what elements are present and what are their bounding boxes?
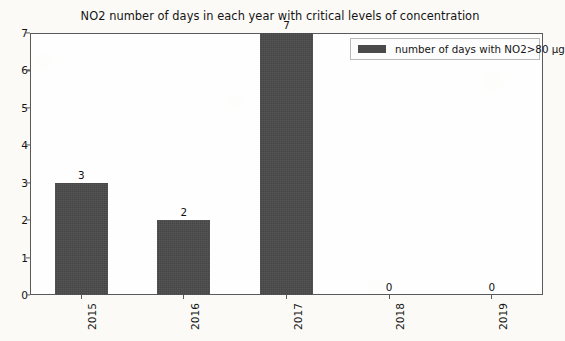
y-axis-tick-label: 6 [0, 64, 28, 76]
bar [157, 220, 210, 295]
bar-value-label: 7 [283, 19, 290, 31]
bar-value-label: 2 [181, 206, 188, 218]
x-axis-tick-label: 2018 [394, 303, 406, 330]
x-axis-tick-mark [491, 295, 492, 299]
bar-value-label: 0 [488, 281, 495, 293]
x-axis-tick-label: 2019 [497, 303, 509, 330]
y-axis-tick-mark [26, 257, 30, 258]
y-axis-tick-mark [26, 294, 30, 295]
x-axis-tick-mark [389, 295, 390, 299]
y-axis-tick-label: 5 [0, 102, 28, 114]
y-axis-tick-label: 7 [0, 27, 28, 39]
y-axis-tick-mark [26, 70, 30, 71]
x-axis-tick-mark [81, 295, 82, 299]
y-axis-tick-label: 1 [0, 252, 28, 264]
y-axis-tick-mark [26, 145, 30, 146]
x-axis-tick-label: 2017 [292, 303, 304, 330]
legend-label: number of days with NO2>80 µg [395, 43, 565, 55]
chart-legend: number of days with NO2>80 µg [350, 38, 540, 60]
bar-value-label: 3 [78, 169, 85, 181]
y-axis-tick-mark [26, 182, 30, 183]
x-axis-tick-mark [286, 295, 287, 299]
bar-value-label: 0 [386, 281, 393, 293]
y-axis-tick-mark [26, 220, 30, 221]
bar [260, 33, 313, 295]
x-axis-tick-label: 2015 [86, 303, 98, 330]
y-axis-tick-mark [26, 32, 30, 33]
y-axis-tick-label: 4 [0, 139, 28, 151]
legend-swatch-icon [358, 45, 386, 53]
bar [55, 183, 108, 295]
y-axis-tick-label: 3 [0, 177, 28, 189]
chart-title: NO2 number of days in each year with cri… [0, 9, 560, 23]
y-axis-tick-label: 2 [0, 214, 28, 226]
x-axis-tick-label: 2016 [189, 303, 201, 330]
x-axis-tick-mark [183, 295, 184, 299]
y-axis-tick-mark [26, 107, 30, 108]
y-axis-tick-label: 0 [0, 289, 28, 301]
